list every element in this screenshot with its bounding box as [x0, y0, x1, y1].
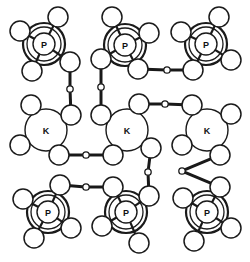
- atom-core: [98, 84, 104, 90]
- atom-label: P: [45, 208, 51, 218]
- atom-core: [182, 95, 202, 115]
- atom-core: [22, 61, 42, 81]
- atom-core: [83, 184, 89, 190]
- atom-oxygen-O4d: [61, 218, 81, 238]
- atom-oxygen-O6c: [184, 231, 204, 251]
- atom-oxygen-OK1a: [21, 95, 41, 115]
- atom-core: [21, 95, 41, 115]
- atom-label: P: [203, 40, 209, 50]
- molecular-structure-diagram: PPPPPPKKK: [0, 0, 250, 262]
- atom-oxygen-O1b: [48, 7, 68, 27]
- atom-core: [221, 50, 241, 70]
- atom-oxygen-OK2c: [103, 145, 123, 165]
- atom-oxygen-OK1d: [61, 105, 81, 125]
- atom-label: P: [122, 41, 128, 51]
- bond-B7-O6b: [183, 171, 213, 184]
- atom-label: K: [43, 126, 50, 136]
- atom-oxygen-O4b: [50, 175, 70, 195]
- atom-oxygen-O5a: [92, 216, 112, 236]
- atom-core: [210, 145, 230, 165]
- atom-core: [129, 94, 149, 114]
- atom-oxygen-OK3d: [210, 145, 230, 165]
- atom-core: [141, 138, 161, 158]
- atom-oxygen-OK2a: [129, 94, 149, 114]
- atom-core: [102, 7, 122, 27]
- atom-bridge-B8: [83, 184, 89, 190]
- atom-oxygen-OK1c: [49, 145, 69, 165]
- atom-bridge-B3: [164, 67, 170, 73]
- atom-label: K: [204, 126, 211, 136]
- atom-oxygen-OK3b: [221, 104, 241, 124]
- atom-label: P: [204, 208, 210, 218]
- atom-core: [49, 145, 69, 165]
- atom-oxygen-O4a: [13, 189, 33, 209]
- atom-core: [129, 233, 149, 253]
- atom-core: [83, 152, 89, 158]
- atom-core: [164, 67, 170, 73]
- atom-core: [24, 228, 44, 248]
- atom-oxygen-OK3a: [182, 95, 202, 115]
- atom-oxygen-O5c: [129, 233, 149, 253]
- atom-oxygen-O6d: [221, 218, 241, 238]
- atom-oxygen-OK2d: [141, 138, 161, 158]
- atom-bridge-B6: [145, 169, 151, 175]
- atom-bridge-B7: [179, 168, 185, 174]
- atom-core: [183, 60, 203, 80]
- atom-core: [210, 177, 230, 197]
- atom-oxygen-O1a: [10, 21, 30, 41]
- atom-oxygen-OK3c: [172, 135, 192, 155]
- atom-oxygen-OK1b: [10, 135, 30, 155]
- bond-OK3d-B7: [183, 158, 213, 171]
- atom-core: [60, 52, 80, 72]
- atom-oxygen-O5b: [103, 177, 123, 197]
- atom-core: [103, 145, 123, 165]
- atom-oxygen-O3c: [183, 60, 203, 80]
- atom-layer: PPPPPPKKK: [10, 7, 241, 253]
- atom-core: [221, 218, 241, 238]
- atom-oxygen-O3d: [221, 50, 241, 70]
- atom-core: [145, 169, 151, 175]
- atom-bridge-B4: [162, 101, 168, 107]
- atom-core: [209, 7, 229, 27]
- atom-core: [184, 231, 204, 251]
- atom-oxygen-O1d: [60, 52, 80, 72]
- atom-core: [139, 186, 159, 206]
- atom-oxygen-O2a: [102, 7, 122, 27]
- atom-core: [171, 22, 191, 42]
- atom-core: [128, 59, 148, 79]
- atom-oxygen-O2d: [128, 59, 148, 79]
- atom-core: [162, 101, 168, 107]
- atom-core: [139, 23, 159, 43]
- atom-oxygen-O1c: [22, 61, 42, 81]
- atom-core: [179, 168, 185, 174]
- atom-core: [173, 188, 193, 208]
- atom-core: [67, 86, 73, 92]
- atom-oxygen-O6b: [210, 177, 230, 197]
- atom-core: [91, 105, 111, 125]
- atom-oxygen-O6a: [173, 188, 193, 208]
- atom-core: [92, 216, 112, 236]
- atom-label: P: [41, 40, 47, 50]
- structure-canvas: PPPPPPKKK: [0, 0, 250, 262]
- atom-bridge-B2: [98, 84, 104, 90]
- atom-core: [91, 49, 111, 69]
- atom-oxygen-O4c: [24, 228, 44, 248]
- atom-core: [13, 189, 33, 209]
- atom-bridge-B5: [83, 152, 89, 158]
- atom-core: [172, 135, 192, 155]
- atom-bridge-B1: [67, 86, 73, 92]
- atom-label: P: [123, 208, 129, 218]
- atom-core: [10, 135, 30, 155]
- atom-oxygen-O3b: [209, 7, 229, 27]
- atom-core: [103, 177, 123, 197]
- atom-core: [61, 218, 81, 238]
- atom-core: [221, 104, 241, 124]
- atom-oxygen-O5d: [139, 186, 159, 206]
- atom-oxygen-O2b: [139, 23, 159, 43]
- atom-core: [48, 7, 68, 27]
- atom-core: [10, 21, 30, 41]
- atom-oxygen-O3a: [171, 22, 191, 42]
- atom-label: K: [124, 126, 131, 136]
- atom-oxygen-OK2b: [91, 105, 111, 125]
- atom-core: [50, 175, 70, 195]
